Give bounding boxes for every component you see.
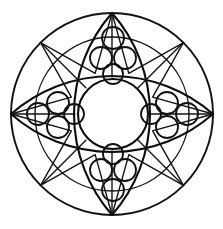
mandala-figure — [0, 0, 223, 229]
drawing-canvas — [0, 0, 223, 229]
